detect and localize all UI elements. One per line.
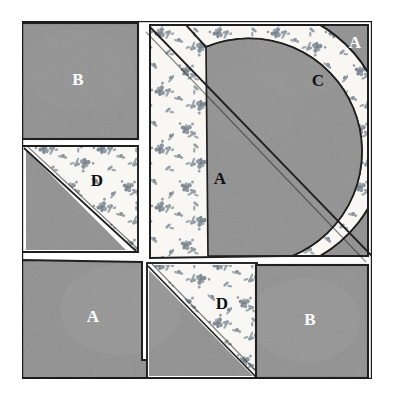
piece-d-left <box>22 146 138 252</box>
label-d-left: D <box>91 171 103 190</box>
label-b-bottomright: B <box>304 310 315 329</box>
label-a-bottomleft: A <box>87 307 100 326</box>
label-b-topleft: B <box>72 70 83 89</box>
label-a-topright: A <box>349 33 362 52</box>
quilt-block-illustration: B A C D A A D B <box>0 0 396 403</box>
label-a-center: A <box>214 169 227 188</box>
quilt-block-svg: B A C D A A D B <box>0 0 396 403</box>
piece-d-bottom <box>147 263 257 378</box>
label-d-bottom: D <box>216 294 228 313</box>
label-c-arc: C <box>312 71 324 90</box>
